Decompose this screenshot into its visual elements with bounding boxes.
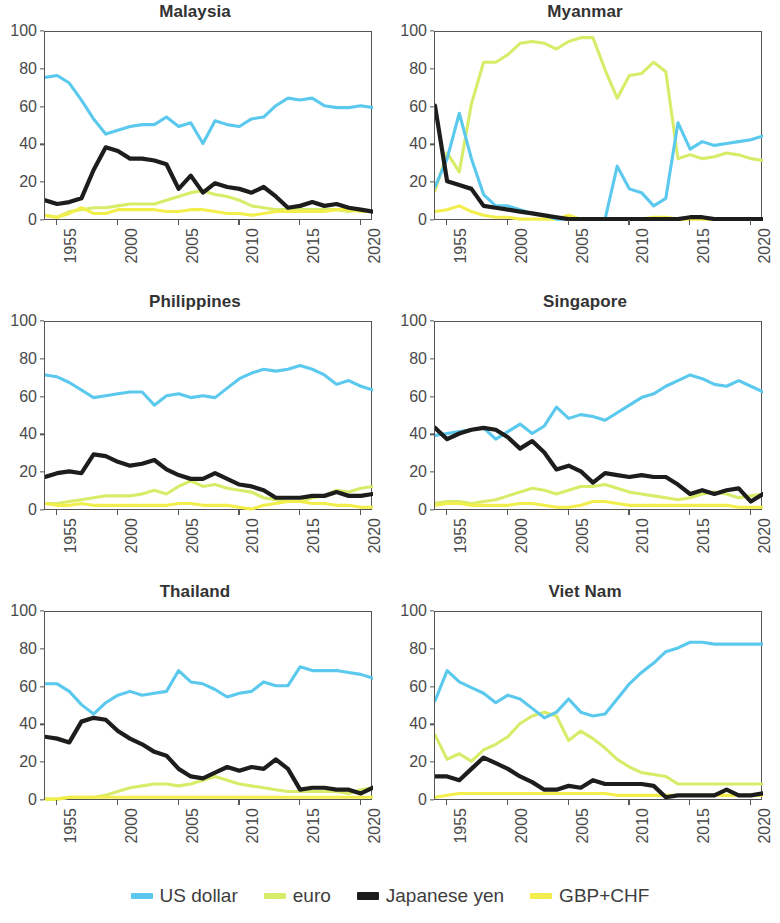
x-axis-tick-label: 2000	[123, 228, 141, 264]
currency-share-figure: Malaysia02040608010019552000200520102015…	[0, 0, 780, 923]
y-axis-tick-label: 0	[28, 792, 37, 808]
y-axis-tick-label: 60	[409, 99, 427, 115]
series-canvas	[434, 31, 764, 222]
y-axis-tick-label: 80	[19, 351, 37, 367]
x-axis-tick-label: 2010	[634, 228, 652, 264]
plot-area	[44, 611, 372, 800]
legend-item-japanese-yen[interactable]: Japanese yen	[357, 885, 504, 907]
series-line-euro	[435, 38, 763, 191]
chart-legend: US dollareuroJapanese yenGBP+CHF	[0, 872, 780, 920]
x-axis-tick-label: 2015	[695, 808, 713, 844]
y-axis-tick-label: 40	[19, 716, 37, 732]
x-axis-tick-mark	[360, 510, 361, 515]
y-axis-tick-label: 100	[10, 23, 37, 39]
x-axis-tick-label: 2010	[634, 518, 652, 554]
y-axis-tick-label: 100	[10, 313, 37, 329]
panel-title: Philippines	[0, 292, 390, 312]
series-line-japanese-yen	[435, 106, 763, 219]
x-axis-tick-label: 2015	[305, 518, 323, 554]
x-axis-tick-label: 2020	[366, 808, 384, 844]
x-axis-tick-mark	[507, 510, 508, 515]
x-axis-tick-mark	[568, 510, 569, 515]
plot-area	[44, 31, 372, 220]
x-axis-tick-label: 2000	[513, 518, 531, 554]
x-axis-tick-label: 1955	[62, 808, 80, 844]
x-axis-tick-label: 1955	[62, 518, 80, 554]
x-axis-tick-mark	[178, 800, 179, 805]
y-axis-tick-label: 40	[409, 426, 427, 442]
series-line-japanese-yen	[45, 718, 373, 794]
x-axis-tick-mark	[178, 510, 179, 515]
x-axis-tick-mark	[299, 510, 300, 515]
panel-title: Thailand	[0, 582, 390, 602]
series-line-us-dollar	[45, 667, 373, 714]
panel-title: Myanmar	[390, 2, 780, 22]
x-axis-tick-label: 2015	[305, 228, 323, 264]
series-line-japanese-yen	[435, 428, 763, 502]
x-axis-tick-mark	[299, 800, 300, 805]
panel-grid: Malaysia02040608010019552000200520102015…	[0, 0, 780, 870]
x-axis-tick-label: 1955	[62, 228, 80, 264]
x-axis-tick-mark	[56, 510, 57, 515]
plot-area	[434, 321, 762, 510]
y-axis-tick-label: 20	[19, 174, 37, 190]
y-axis-tick-label: 0	[28, 502, 37, 518]
x-axis: 195520002005201020152020	[44, 510, 372, 580]
legend-swatch-icon	[264, 893, 286, 899]
x-axis-tick-label: 2000	[123, 808, 141, 844]
y-axis-tick-label: 40	[19, 426, 37, 442]
x-axis-tick-mark	[117, 220, 118, 225]
x-axis-tick-label: 2005	[574, 808, 592, 844]
x-axis: 195520002005201020152020	[44, 220, 372, 290]
series-line-euro	[45, 481, 373, 504]
series-line-us-dollar	[435, 642, 763, 718]
x-axis-tick-label: 1955	[452, 808, 470, 844]
legend-swatch-icon	[131, 893, 153, 899]
x-axis-tick-mark	[750, 510, 751, 515]
x-axis-tick-mark	[628, 800, 629, 805]
y-axis-tick-label: 60	[409, 389, 427, 405]
x-axis-tick-mark	[360, 800, 361, 805]
x-axis-tick-label: 2005	[574, 518, 592, 554]
x-axis-tick-mark	[568, 800, 569, 805]
y-axis-tick-label: 100	[400, 603, 427, 619]
y-axis-tick-label: 60	[409, 679, 427, 695]
legend-item-us-dollar[interactable]: US dollar	[131, 885, 238, 907]
panel-title: Viet Nam	[390, 582, 780, 602]
x-axis-tick-label: 2010	[244, 808, 262, 844]
x-axis-tick-mark	[117, 510, 118, 515]
x-axis: 195520002005201020152020	[434, 800, 762, 870]
y-axis: 020406080100	[390, 611, 434, 800]
series-canvas	[434, 611, 764, 802]
y-axis-tick-label: 20	[409, 754, 427, 770]
series-line-euro	[435, 712, 763, 784]
y-axis: 020406080100	[390, 31, 434, 220]
legend-item-gbp-chf[interactable]: GBP+CHF	[530, 885, 649, 907]
series-line-japanese-yen	[45, 147, 373, 211]
x-axis-tick-mark	[750, 220, 751, 225]
series-line-japanese-yen	[45, 454, 373, 497]
legend-label: GBP+CHF	[559, 885, 649, 907]
x-axis-tick-label: 2015	[305, 808, 323, 844]
x-axis-tick-mark	[360, 220, 361, 225]
series-line-gbp-chf	[45, 797, 373, 799]
y-axis-tick-label: 100	[400, 313, 427, 329]
x-axis-tick-mark	[299, 220, 300, 225]
y-axis-tick-label: 20	[409, 464, 427, 480]
chart-panel-philippines: Philippines02040608010019552000200520102…	[0, 290, 390, 580]
x-axis-tick-mark	[178, 220, 179, 225]
x-axis-tick-mark	[689, 510, 690, 515]
x-axis-tick-label: 2020	[366, 518, 384, 554]
legend-item-euro[interactable]: euro	[264, 885, 331, 907]
y-axis-tick-label: 100	[400, 23, 427, 39]
x-axis-tick-label: 2015	[695, 228, 713, 264]
x-axis-tick-mark	[56, 800, 57, 805]
x-axis: 195520002005201020152020	[434, 510, 762, 580]
y-axis-tick-label: 80	[409, 641, 427, 657]
series-line-japanese-yen	[435, 758, 763, 798]
x-axis-tick-mark	[507, 220, 508, 225]
x-axis-tick-mark	[689, 800, 690, 805]
legend-label: euro	[293, 885, 331, 907]
y-axis-tick-label: 0	[418, 212, 427, 228]
series-line-us-dollar	[45, 365, 373, 405]
